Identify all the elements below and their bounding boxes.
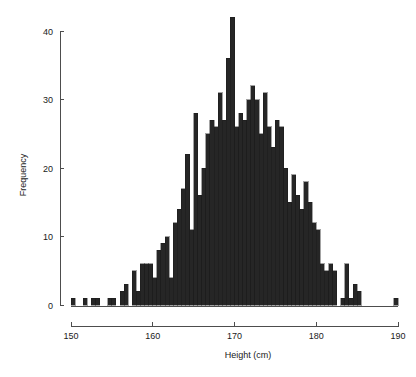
histogram-bar (124, 284, 128, 305)
histogram-bar (161, 243, 165, 305)
histogram-bar (140, 264, 144, 305)
histogram-bar (198, 195, 202, 305)
histogram-bar (296, 195, 300, 305)
y-tick-label: 0 (48, 301, 53, 311)
histogram-bar (288, 202, 292, 305)
histogram-bar (83, 298, 87, 305)
histogram-bar (194, 113, 198, 305)
x-tick-label: 170 (227, 331, 242, 341)
histogram-bar (132, 271, 136, 305)
histogram-bar (185, 154, 189, 305)
histogram-bar (153, 278, 157, 305)
histogram-bar (275, 120, 279, 305)
histogram-bar (230, 17, 234, 305)
histogram-bar (263, 93, 267, 305)
y-tick-label: 30 (43, 95, 53, 105)
y-axis (60, 31, 64, 305)
x-axis (71, 306, 398, 326)
y-tick-label: 40 (43, 27, 53, 37)
histogram-bar (136, 291, 140, 305)
histogram-bar (267, 127, 271, 305)
histogram-bar (251, 86, 255, 305)
histogram-bar (108, 298, 112, 305)
histogram-bar (120, 291, 124, 305)
histogram-bar (316, 230, 320, 305)
histogram-bar (239, 113, 243, 305)
histogram-bar (214, 127, 218, 305)
histogram-bar (345, 264, 349, 305)
histogram-chart: 150160170180190 010203040 Height (cm) Fr… (0, 0, 416, 377)
histogram-bar (235, 127, 239, 305)
y-tick-label: 20 (43, 164, 53, 174)
x-axis-spine (71, 322, 398, 326)
histogram-bar (181, 189, 185, 305)
histogram-bar (165, 237, 169, 306)
histogram-bar (218, 93, 222, 305)
y-axis-spine (60, 31, 64, 305)
histogram-bar (279, 127, 283, 305)
x-tick-label: 150 (63, 331, 78, 341)
y-axis-title: Frequency (18, 153, 28, 196)
histogram-bar (292, 175, 296, 305)
histogram-bar (320, 264, 324, 305)
x-tick-label: 190 (390, 331, 405, 341)
histogram-bar (96, 298, 100, 305)
histogram-bar (284, 168, 288, 305)
histogram-bar (157, 250, 161, 305)
histogram-bar (149, 264, 153, 305)
plot-area: 150160170180190 010203040 Height (cm) Fr… (0, 0, 416, 377)
x-axis-title: Height (cm) (225, 350, 272, 360)
histogram-bar (308, 202, 312, 305)
x-tick-label: 180 (309, 331, 324, 341)
histogram-bar (324, 271, 328, 305)
histogram-bar (341, 298, 345, 305)
histogram-bar (259, 134, 263, 305)
histogram-bar (312, 223, 316, 305)
histogram-bar (145, 264, 149, 305)
histogram-bar (357, 291, 361, 305)
histogram-bar (304, 182, 308, 305)
histogram-bar (222, 120, 226, 305)
histogram-bar (206, 134, 210, 305)
histogram-bar (71, 298, 75, 305)
histogram-bar (329, 264, 333, 305)
histogram-bar (173, 223, 177, 305)
histogram-bar (177, 209, 181, 305)
histogram-bar (300, 209, 304, 305)
histogram-bar (394, 298, 398, 305)
histogram-bar (226, 58, 230, 305)
histogram-bar (112, 298, 116, 305)
histogram-bar (210, 120, 214, 305)
histogram-bar (190, 230, 194, 305)
histogram-bar (333, 271, 337, 305)
y-tick-labels: 010203040 (43, 27, 53, 311)
histogram-bar (271, 147, 275, 305)
y-tick-label: 10 (43, 232, 53, 242)
bars-group (71, 17, 398, 305)
x-tick-labels: 150160170180190 (63, 331, 405, 341)
histogram-bar (243, 120, 247, 305)
histogram-bar (169, 278, 173, 305)
x-tick-label: 160 (145, 331, 160, 341)
histogram-bar (91, 298, 95, 305)
histogram-bar (202, 168, 206, 305)
histogram-bar (349, 298, 353, 305)
histogram-bar (353, 284, 357, 305)
histogram-bar (247, 100, 251, 306)
histogram-bar (255, 100, 259, 306)
